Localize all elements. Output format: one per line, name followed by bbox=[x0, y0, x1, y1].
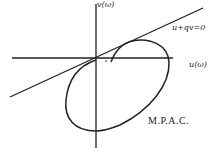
line-equation-label: u+qv=0 bbox=[172, 23, 205, 32]
vertical-axis-label: v(ω) bbox=[97, 0, 114, 9]
point-marker bbox=[105, 60, 107, 62]
popov-line bbox=[10, 8, 203, 97]
curve-label: M.P.A.C. bbox=[148, 115, 189, 126]
horizontal-axis-label: u(ω) bbox=[189, 60, 207, 69]
